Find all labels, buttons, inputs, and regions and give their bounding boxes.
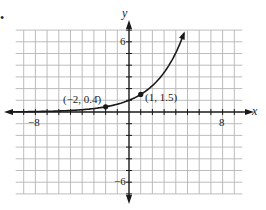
y-tick-label-neg6: −6 — [114, 175, 126, 187]
y-axis-label: y — [121, 6, 128, 20]
point-label-1: (1, 1.5) — [145, 91, 177, 104]
x-axis-label: x — [251, 104, 258, 118]
x-tick-label-8: 8 — [219, 116, 225, 128]
point-label-neg2: (−2, 0.4̄) — [63, 93, 102, 106]
y-tick-label-6: 6 — [120, 35, 126, 47]
exponential-graph: x y −8 8 6 −6 (−2, 0.4̄) (1, 1.5) — [0, 0, 266, 210]
data-point — [103, 104, 108, 109]
curve-arrow-icon — [179, 31, 185, 40]
x-tick-label-neg8: −8 — [28, 116, 40, 128]
data-point — [138, 92, 143, 97]
